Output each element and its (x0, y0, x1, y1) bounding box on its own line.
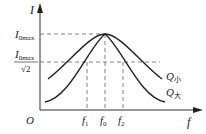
svg-text:I0max: I0max (14, 48, 35, 62)
x-axis-label: f (187, 115, 192, 129)
legend-q-large: Q大 (166, 86, 181, 100)
svg-text:Q大: Q大 (166, 86, 181, 100)
resonance-chart: I f O I0max I0max √2 f1 f0 f2 Q小 Q大 (0, 0, 206, 134)
y-tick-i0max: I0max (14, 28, 35, 42)
y-tick-half-power: I0max √2 (14, 48, 38, 74)
x-axis-arrow-icon (193, 107, 203, 113)
svg-text:√2: √2 (21, 64, 30, 74)
x-tick-f1: f1 (82, 114, 89, 128)
svg-text:f0: f0 (100, 114, 107, 128)
y-axis-label: I (29, 3, 35, 17)
svg-text:f1: f1 (82, 114, 89, 128)
svg-text:I0max: I0max (14, 28, 35, 42)
x-tick-f0: f0 (100, 114, 107, 128)
y-axis-arrow-icon (37, 3, 43, 13)
x-tick-f2: f2 (118, 114, 125, 128)
legend-q-small: Q小 (166, 70, 181, 84)
guide-lines (40, 34, 160, 110)
svg-text:Q小: Q小 (166, 70, 181, 84)
svg-text:f2: f2 (118, 114, 125, 128)
origin-label: O (26, 114, 34, 126)
